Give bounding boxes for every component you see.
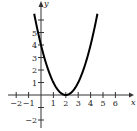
y-tick-label: 1	[32, 79, 37, 88]
axes: xy	[8, 0, 136, 128]
y-tick-label: 5	[32, 29, 37, 38]
x-tick-label: 4	[88, 99, 93, 108]
x-tick-label: −2	[10, 99, 22, 108]
y-tick-label: −2	[25, 116, 37, 125]
x-tick-label: 1	[51, 99, 56, 108]
parabola-chart: xy −2−1123456−212345	[0, 0, 137, 131]
x-tick-label: 5	[100, 99, 105, 108]
y-tick-label: 3	[32, 54, 37, 63]
y-axis-arrow-icon	[39, 1, 44, 7]
ticks: −2−1123456−212345	[10, 20, 118, 125]
x-tick-label: 6	[113, 99, 118, 108]
y-tick-label: 2	[32, 66, 37, 75]
x-tick-label: 3	[76, 99, 81, 108]
x-tick-label: 2	[63, 99, 68, 108]
y-tick-label: 4	[32, 41, 37, 50]
x-axis-label: x	[131, 98, 136, 107]
y-axis-label: y	[43, 0, 49, 8]
x-axis-arrow-icon	[129, 93, 134, 98]
x-tick-label: −1	[23, 99, 35, 108]
